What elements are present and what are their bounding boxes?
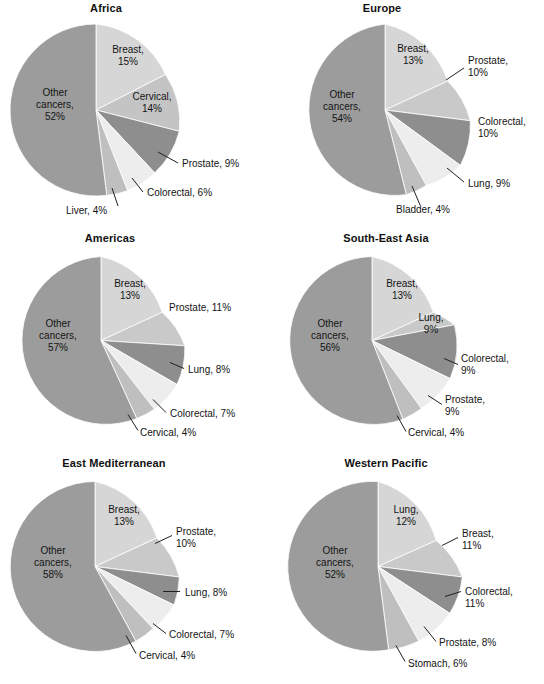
label-lung-line1: Lung, [418,312,443,323]
label-other-line1: Other [329,89,355,100]
label-other-line1: Other [40,545,66,556]
panel-americas: Americas Breast, 13% Other cancers [0,230,272,455]
label-other-line2: cancers, [323,101,361,112]
label-other-line3: 56% [320,342,340,353]
label-breast-line2: 11% [462,540,481,551]
panel-southeast-asia: South-East Asia Breast, 13% Lung, [272,230,544,455]
label-other-line3: 58% [43,569,63,580]
label-bladder-europe: Bladder, 4% [396,204,450,215]
pie-chart-europe: Breast, 13% Other cancers, 54% Prostate,… [272,0,544,230]
label-lung-line1: Lung, [393,504,418,515]
panel-europe: Europe Breast, 13% Other cancers, [272,0,544,230]
label-lung-emr: Lung, 8% [185,587,227,598]
label-colorectal-line1: Colorectal, [465,586,513,597]
pie-chart-east-mediterranean: Breast, 13% Other cancers, 58% Prostate,… [0,455,272,684]
label-breast-line1: Breast, [114,278,146,289]
pie-chart-americas: Breast, 13% Other cancers, 57% Prostate,… [0,230,272,460]
label-lung-line2: 9% [424,324,439,335]
label-prostate-line1: Prostate, [445,394,485,405]
label-cervical-americas: Cervical, 4% [140,427,196,438]
label-other-line2: cancers, [311,330,349,341]
leader-prostate [446,68,464,80]
label-breast-line1: Breast, [462,528,494,539]
leader-colorectal [153,624,166,634]
pie-chart-grid: Africa Breast, 15% Cervical, [0,0,544,684]
label-breast-line2: 13% [403,55,423,66]
label-stomach-wp: Stomach, 6% [408,658,468,669]
label-other-line1: Other [317,318,343,329]
label-breast-line2: 13% [120,290,140,301]
panel-africa: Africa Breast, 15% Cervical, [0,0,272,230]
label-prostate-line2: 10% [176,538,196,549]
label-cervical-emr: Cervical, 4% [139,650,195,661]
label-liver-africa: Liver, 4% [66,205,107,216]
label-prostate-line2: 10% [468,67,488,78]
label-prostate-africa: Prostate, 9% [182,158,239,169]
label-other-line1: Other [322,545,348,556]
label-colorectal-americas: Colorectal, 7% [170,408,235,419]
label-other-line3: 52% [45,111,65,122]
label-cervical-line2: 14% [142,103,162,114]
label-colorectal-line2: 10% [478,128,498,139]
label-breast-line2: 13% [114,516,134,527]
panel-east-mediterranean: East Mediterranean Breast, 13% Other [0,455,272,684]
pie-chart-southeast-asia: Breast, 13% Lung, 9% Other cancers, 56% … [272,230,544,460]
label-prostate-line2: 9% [445,406,460,417]
label-other-line2: cancers, [36,99,74,110]
slice-other-africa[interactable] [10,24,107,196]
label-breast-line1: Breast, [112,44,144,55]
label-prostate-line1: Prostate, [176,526,216,537]
label-breast-line2: 13% [392,290,412,301]
label-other-line1: Other [45,318,71,329]
label-breast-line1: Breast, [108,504,140,515]
label-other-line2: cancers, [34,557,72,568]
label-colorectal-line2: 11% [465,598,484,609]
label-other-line3: 57% [48,342,68,353]
pie-chart-western-pacific: Lung, 12% Other cancers, 52% Breast, 11%… [272,455,544,684]
pie-slices-western-pacific [288,481,463,651]
label-lung-europe: Lung, 9% [468,178,510,189]
label-breast-line2: 15% [118,56,138,67]
label-other-line3: 52% [325,569,345,580]
label-prostate-line1: Prostate, [468,55,508,66]
panel-western-pacific: Western Pacific Lung, 12% Other ca [272,455,544,684]
label-lung-line2: 12% [396,516,416,527]
label-other-line2: cancers, [39,330,77,341]
label-other-line2: cancers, [316,557,354,568]
label-other-line3: 54% [332,113,352,124]
leader-breast [442,538,458,546]
label-prostate-americas: Prostate, 11% [169,302,231,313]
label-colorectal-line2: 9% [461,365,476,376]
label-cervical-sea: Cervical, 4% [408,427,464,438]
label-cervical-line1: Cervical, [133,91,172,102]
label-colorectal-line1: Colorectal, [461,353,509,364]
label-colorectal-line1: Colorectal, [478,116,526,127]
label-colorectal-emr: Colorectal, 7% [169,629,234,640]
label-lung-americas: Lung, 8% [188,364,230,375]
label-breast-line1: Breast, [386,278,418,289]
label-other-line1: Other [42,87,68,98]
label-prostate-wp: Prostate, 8% [439,637,496,648]
label-breast-line1: Breast, [397,43,429,54]
pie-chart-africa: Breast, 15% Cervical, 14% Other cancers,… [0,0,272,230]
label-colorectal-africa: Colorectal, 6% [147,187,212,198]
